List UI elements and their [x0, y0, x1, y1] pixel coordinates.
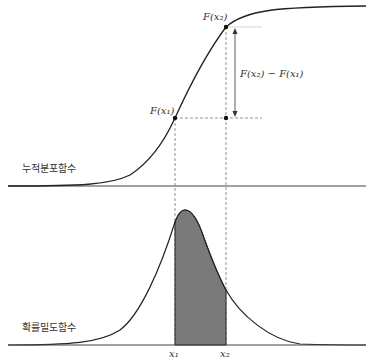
difference-label: F(x₂) − F(x₁): [239, 68, 304, 79]
cdf-title: 누적분포함수: [22, 163, 76, 174]
x2-at-fx1-point: [224, 116, 228, 120]
x2-label: x₂: [220, 348, 230, 359]
arrow-head-up-icon: [233, 28, 238, 34]
cdf-curve: [8, 6, 366, 186]
pdf-shaded-area: [175, 210, 226, 345]
pdf-title: 확률밀도함수: [22, 322, 76, 333]
fx2-label: F(x₂): [202, 11, 227, 22]
fx1-point: [173, 116, 177, 120]
cdf-pdf-diagram: F(x₁) F(x₂) F(x₂) − F(x₁) 누적분포함수 확률밀도함수 …: [0, 0, 372, 361]
x1-label: x₁: [169, 348, 179, 359]
fx2-point: [224, 25, 228, 29]
fx1-label: F(x₁): [149, 105, 174, 116]
pdf-panel: 확률밀도함수 x₁ x₂: [8, 210, 366, 359]
arrow-head-down-icon: [233, 111, 238, 117]
